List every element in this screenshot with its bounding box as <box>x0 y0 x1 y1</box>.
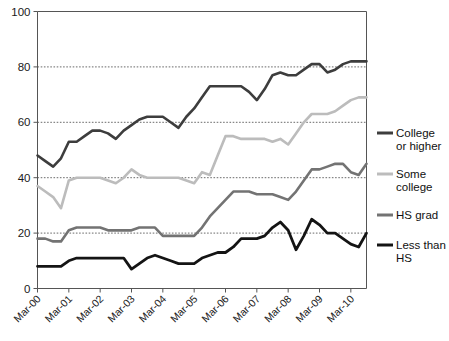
x-tick-label: Mar-08 <box>262 292 294 324</box>
y-tick-label: 60 <box>18 116 31 128</box>
legend-label: college <box>396 181 432 193</box>
y-tick-label: 80 <box>18 61 31 73</box>
x-tick-labels: Mar-00Mar-01Mar-02Mar-03Mar-04Mar-05Mar-… <box>11 292 356 324</box>
line-chart: 020406080100 Mar-00Mar-01Mar-02Mar-03Mar… <box>0 0 449 341</box>
legend-label: Some <box>396 168 426 180</box>
x-tick-marks <box>38 289 351 293</box>
x-tick-label: Mar-06 <box>199 292 231 324</box>
x-tick-label: Mar-09 <box>293 292 325 324</box>
x-tick-label: Mar-00 <box>11 292 43 324</box>
legend-label: Less than <box>396 239 446 251</box>
y-tick-label: 20 <box>18 227 31 239</box>
plot-frame <box>38 12 367 289</box>
y-tick-label: 40 <box>18 172 31 184</box>
chart-canvas: 020406080100 Mar-00Mar-01Mar-02Mar-03Mar… <box>0 0 449 341</box>
y-tick-label: 100 <box>11 6 30 18</box>
legend-label: or higher <box>396 140 442 152</box>
legend-label: HS <box>396 252 412 264</box>
series-line-hs-grad <box>38 164 367 242</box>
y-tick-label: 0 <box>24 283 30 295</box>
x-tick-label: Mar-07 <box>230 292 262 324</box>
x-tick-label: Mar-05 <box>168 292 200 324</box>
chart-legend: Collegeor higherSomecollegeHS gradLess t… <box>377 127 446 264</box>
x-tick-label: Mar-04 <box>136 292 168 324</box>
legend-label: College <box>396 127 435 139</box>
x-tick-label: Mar-03 <box>105 292 137 324</box>
x-tick-label: Mar-02 <box>74 292 106 324</box>
legend-label: HS grad <box>396 209 438 221</box>
series-group <box>38 61 367 269</box>
series-line-some-college <box>38 97 367 208</box>
x-tick-label: Mar-01 <box>42 292 74 324</box>
x-tick-label: Mar-10 <box>324 292 356 324</box>
gridlines-group <box>38 67 367 233</box>
y-tick-labels: 020406080100 <box>11 6 30 295</box>
y-tick-marks <box>34 12 38 289</box>
